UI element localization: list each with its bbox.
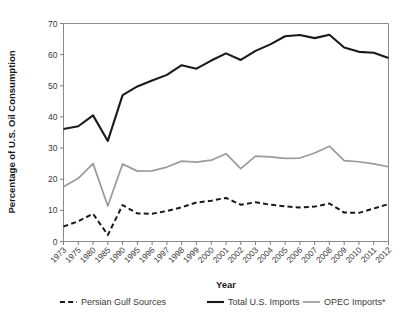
x-axis-title: Year <box>216 279 236 290</box>
y-tick-label: 70 <box>48 19 58 29</box>
series-line-total-u-s-imports <box>64 35 389 141</box>
y-axis: 010203040506070 <box>48 19 63 247</box>
legend-label-0[interactable]: Persian Gulf Sources <box>81 297 167 307</box>
line-chart: 010203040506070 197319751980198519901995… <box>0 0 415 323</box>
y-tick-label: 0 <box>53 237 58 247</box>
x-axis: 1973197519801985199019951996199719981999… <box>48 242 393 265</box>
y-tick-label: 60 <box>48 50 58 60</box>
chart-figure: 010203040506070 197319751980198519901995… <box>0 0 415 323</box>
legend-label-2[interactable]: OPEC Imports* <box>324 297 386 307</box>
series-line-persian-gulf-sources <box>64 198 389 235</box>
data-series-group <box>64 35 389 235</box>
y-tick-label: 40 <box>48 112 58 122</box>
y-tick-label: 20 <box>48 174 58 184</box>
y-axis-title: Percentage of U.S. Oil Consumption <box>6 50 17 213</box>
y-tick-label: 50 <box>48 81 58 91</box>
chart-legend: Persian Gulf SourcesTotal U.S. ImportsOP… <box>60 297 386 307</box>
x-tick-label: 2012 <box>373 245 393 265</box>
y-tick-label: 30 <box>48 143 58 153</box>
y-tick-label: 10 <box>48 205 58 215</box>
legend-label-1[interactable]: Total U.S. Imports <box>228 297 300 307</box>
